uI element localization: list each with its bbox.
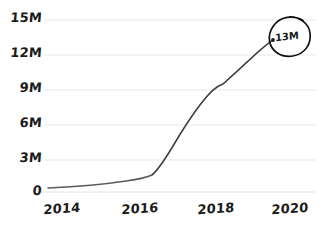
data-series-growth	[48, 38, 275, 188]
data-line-shadow	[152, 40, 273, 175]
y-axis-tick-6m: 6M	[1, 115, 42, 130]
chart-canvas	[0, 0, 319, 230]
y-axis-tick-15m: 15M	[1, 10, 42, 25]
y-axis-tick-3m: 3M	[1, 150, 42, 165]
y-axis-tick-9m: 9M	[1, 80, 42, 95]
y-axis-tick-12m: 12M	[1, 45, 42, 60]
y-axis-tick-0: 0	[1, 183, 42, 198]
gridlines	[40, 20, 316, 192]
line-chart: 15M 12M 9M 6M 3M 0 2014 2016 2018 2020 1…	[0, 0, 319, 230]
